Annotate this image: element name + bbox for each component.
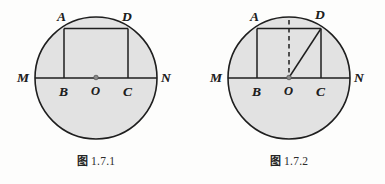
- point-label-O: O: [91, 85, 100, 98]
- point-label-M: M: [17, 71, 29, 85]
- caption-cjk-label: 图: [77, 155, 88, 168]
- point-label-C: C: [123, 85, 132, 99]
- figure-1-7-2: A D B O C M N 图1.7.2: [193, 0, 385, 184]
- caption-number: 1.7.1: [88, 155, 116, 167]
- point-label-N: N: [354, 71, 364, 85]
- caption-cjk-label: 图: [270, 155, 281, 168]
- figure-1-7-2-caption: 图1.7.2: [193, 152, 385, 168]
- point-label-A: A: [57, 10, 66, 24]
- point-label-D: D: [315, 8, 325, 22]
- point-label-M: M: [210, 71, 222, 85]
- point-label-C: C: [316, 85, 325, 99]
- center-point-marker: [94, 75, 99, 80]
- figure-1-7-1: A D B O C M N 图1.7.1: [0, 0, 192, 184]
- point-label-B: B: [252, 85, 261, 99]
- point-label-N: N: [161, 71, 171, 85]
- point-label-D: D: [122, 10, 132, 24]
- center-point-marker: [287, 75, 292, 80]
- figure-page: A D B O C M N 图1.7.1: [0, 0, 385, 184]
- point-label-O: O: [284, 85, 293, 98]
- point-label-A: A: [250, 10, 259, 24]
- caption-number: 1.7.2: [281, 155, 309, 167]
- figure-1-7-1-caption: 图1.7.1: [0, 152, 192, 168]
- point-label-B: B: [59, 85, 68, 99]
